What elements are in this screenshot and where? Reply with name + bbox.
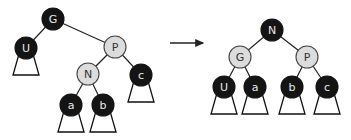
node-label: P [112,41,119,54]
rotation-diagram: GUPNcabNGPUabc [0,0,351,140]
node-c-after-rotation: c [316,76,338,98]
node-a-before-rotation: a [60,94,82,116]
node-label: N [84,68,92,81]
node-label: U [220,81,228,94]
node-label: P [304,51,311,64]
node-a-after-rotation: a [244,76,266,98]
node-G-before-rotation: G [42,8,64,30]
node-label: a [252,81,259,94]
node-label: b [100,99,107,112]
node-c-before-rotation: c [130,64,152,86]
node-label: a [68,99,75,112]
node-N-before-rotation: N [77,63,99,85]
node-N-after-rotation: N [261,19,283,41]
node-b-after-rotation: b [281,76,303,98]
node-label: b [289,81,296,94]
node-label: G [49,13,58,26]
node-U-after-rotation: U [213,76,235,98]
node-P-after-rotation: P [296,46,318,68]
node-P-before-rotation: P [104,36,126,58]
node-label: c [324,81,330,94]
node-b-before-rotation: b [92,94,114,116]
node-label: G [236,51,245,64]
node-U-before-rotation: U [15,37,37,59]
node-label: U [22,42,30,55]
node-label: c [138,69,144,82]
node-G-after-rotation: G [229,46,251,68]
diagram-svg: GUPNcabNGPUabc [0,0,351,140]
node-label: N [268,24,276,37]
